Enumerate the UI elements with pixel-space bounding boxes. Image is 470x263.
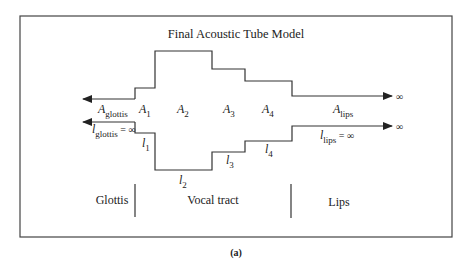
length-label-l4: l4 bbox=[265, 142, 273, 159]
upper-tube-contour bbox=[135, 51, 392, 99]
length-label-l3: l3 bbox=[226, 153, 234, 170]
lower-infinity-label: ∞ bbox=[396, 121, 403, 132]
area-label-a3: A3 bbox=[222, 102, 235, 119]
region-label-glottis: Glottis bbox=[96, 193, 129, 207]
figure-title: Final Acoustic Tube Model bbox=[168, 27, 305, 41]
area-label-a2: A2 bbox=[176, 102, 189, 119]
area-label-a1: A1 bbox=[138, 102, 151, 119]
area-label-lips: Alips bbox=[332, 102, 354, 119]
length-label-l1: l1 bbox=[142, 136, 150, 153]
area-label-glottis: Aglottis bbox=[97, 102, 128, 119]
upper-infinity-label: ∞ bbox=[396, 91, 403, 102]
length-label-lips: llips = ∞ bbox=[320, 128, 354, 145]
length-label-l2: l2 bbox=[179, 173, 187, 190]
figure-caption: (a) bbox=[230, 247, 242, 259]
acoustic-tube-diagram: Final Acoustic Tube Model ∞ ∞ Aglottis A… bbox=[0, 0, 470, 263]
area-label-a4: A4 bbox=[261, 102, 274, 119]
region-label-vocal-tract: Vocal tract bbox=[187, 193, 239, 207]
length-label-glottis: lglottis = ∞ bbox=[92, 122, 136, 139]
region-label-lips: Lips bbox=[328, 195, 350, 209]
